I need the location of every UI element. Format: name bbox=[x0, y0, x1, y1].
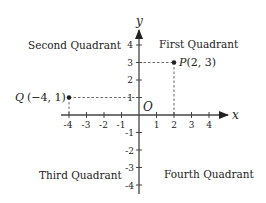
x-tick-label: -4 bbox=[64, 120, 73, 130]
y-tick-label: -1 bbox=[125, 128, 134, 138]
quadrant-second-label: Second Quadrant bbox=[28, 39, 122, 51]
y-tick-label: 4 bbox=[127, 40, 133, 50]
point-p-marker bbox=[172, 60, 177, 65]
x-tick-labels: -4 -3 -2 -1 1 2 3 4 bbox=[64, 120, 213, 130]
y-tick-label: -4 bbox=[125, 181, 134, 191]
quadrant-third-label: Third Quadrant bbox=[39, 169, 123, 181]
y-tick-label: -3 bbox=[125, 163, 134, 173]
x-tick-label: 4 bbox=[206, 120, 212, 130]
origin-label: O bbox=[143, 100, 153, 114]
point-q-name: Q bbox=[15, 91, 24, 104]
y-tick-label: 2 bbox=[127, 75, 133, 85]
point-p-label: P(2, 3) bbox=[178, 56, 216, 69]
x-axis-label: x bbox=[232, 108, 239, 122]
quadrant-first-label: First Quadrant bbox=[159, 38, 239, 50]
point-q-label: Q(−4, 1) bbox=[15, 91, 66, 104]
point-q-coords: (−4, 1) bbox=[27, 91, 66, 104]
coordinate-plane: -4 -3 -2 -1 1 2 3 4 4 3 2 1 -1 -2 -3 -4 … bbox=[0, 0, 266, 203]
x-tick-label: -3 bbox=[82, 120, 91, 130]
x-tick-label: -1 bbox=[117, 120, 126, 130]
x-tick-label: 2 bbox=[171, 120, 177, 130]
quadrant-fourth-label: Fourth Quadrant bbox=[164, 168, 255, 180]
x-tick-label: 3 bbox=[189, 120, 195, 130]
x-tick-label: -2 bbox=[99, 120, 108, 130]
y-tick-label: -2 bbox=[125, 146, 134, 156]
y-tick-label: 3 bbox=[127, 58, 133, 68]
point-q-marker bbox=[67, 95, 72, 100]
x-tick-label: 1 bbox=[154, 120, 160, 130]
y-axis-label: y bbox=[135, 14, 143, 28]
point-p-coords: (2, 3) bbox=[186, 56, 216, 69]
